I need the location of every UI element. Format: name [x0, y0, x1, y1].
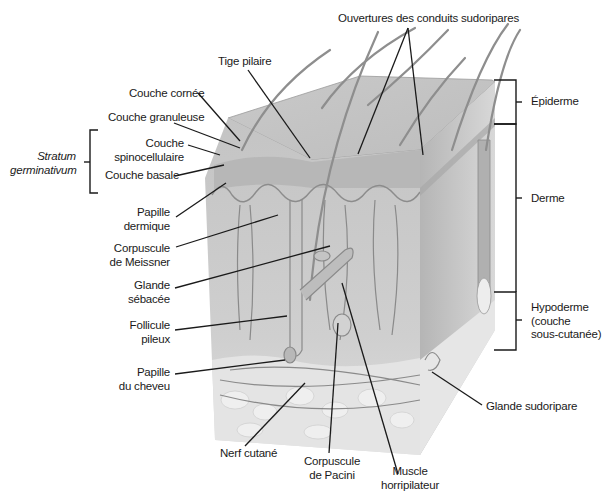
label-dermal-papilla: Papille dermique [100, 206, 170, 233]
label-epidermis: Épiderme [531, 95, 579, 109]
label-stratum-spinosum: Couche spinocellulaire [100, 137, 184, 164]
label-stratum-basale: Couche basale [105, 169, 179, 183]
label-stratum-corneum: Couche cornée [129, 87, 204, 101]
label-hypodermis: Hypoderme (couche sous-cutanée) [531, 301, 601, 342]
label-sweat-gland: Glande sudoripare [486, 400, 577, 414]
skin-diagram: Ouvertures des conduits sudoripares Tige… [0, 0, 605, 497]
label-sweat-pore-openings: Ouvertures des conduits sudoripares [338, 12, 519, 26]
label-meissner-corpuscle: Corpuscule de Meissner [90, 242, 170, 269]
label-arrector-pili-muscle: Muscle horripilateur [370, 465, 450, 492]
label-dermis: Derme [531, 192, 565, 206]
label-hair-shaft: Tige pilaire [218, 55, 271, 69]
label-pacinian-corpuscle: Corpuscule de Pacini [296, 455, 368, 482]
label-hair-follicle: Follicule pileux [100, 319, 170, 346]
label-hair-papilla: Papille du cheveu [100, 366, 170, 393]
label-stratum-granulosum: Couche granuleuse [108, 111, 204, 125]
label-cutaneous-nerve: Nerf cutané [220, 447, 277, 461]
label-sebaceous-gland: Glande sébacée [100, 279, 170, 306]
label-stratum-germinativum: Stratum germinativum [10, 150, 76, 177]
